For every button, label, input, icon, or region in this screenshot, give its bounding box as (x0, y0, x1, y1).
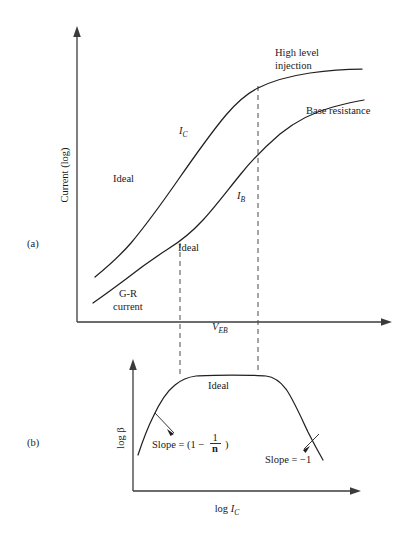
panel-a-high-level-injection-label-line2: injection (275, 60, 312, 71)
panel-b-slope-left-numerator: 1 (212, 432, 217, 443)
panel-b-label: (b) (27, 437, 40, 449)
panel-a-high-level-injection-label-line1: High level (275, 47, 319, 58)
figure-svg: IC IB Ideal Ideal High level injection B… (0, 0, 412, 547)
panel-b-slope-left-label: Slope = (1 − 1 n ) (152, 432, 229, 454)
panel-b-slope-right-leader (304, 434, 319, 449)
panel-b-slope-right-label: Slope = −1 (265, 454, 311, 465)
panel-b-slope-left-denominator: n (212, 443, 218, 454)
panel-a-label: (a) (27, 238, 39, 250)
panel-a-ib-label: IB (236, 190, 246, 204)
panel-b-y-axis-label: log β (115, 427, 126, 448)
panel-a-y-axis-arrowhead (73, 26, 81, 37)
panel-a-y-axis-label: Current (log) (59, 147, 71, 203)
panel-b-y-axis-arrowhead (129, 359, 137, 370)
panel-a: IC IB Ideal Ideal High level injection B… (27, 26, 392, 374)
panel-a-ic-label: IC (178, 125, 189, 139)
panel-b-slope-left-prefix: Slope = (1 − (152, 439, 204, 451)
panel-a-ideal-lower-label: Ideal (178, 242, 199, 253)
panel-a-x-axis-arrowhead (381, 318, 392, 326)
panel-b-x-axis-arrowhead (350, 487, 361, 495)
panel-a-gr-current-label-line1: G-R (119, 288, 137, 299)
panel-a-base-resistance-label: Base resistance (306, 105, 371, 116)
panel-a-x-axis-label: VEB (212, 321, 228, 335)
panel-b-slope-left-leader (155, 413, 174, 433)
panel-a-curve-collector-current (95, 69, 362, 277)
panel-b-ideal-label: Ideal (208, 380, 229, 391)
panel-b-slope-left-suffix: ) (225, 439, 229, 451)
panel-b-x-axis-label: log IC (215, 503, 241, 517)
panel-a-curve-base-current (93, 100, 364, 303)
panel-a-gr-current-label-line2: current (113, 301, 143, 312)
panel-a-ideal-upper-label: Ideal (113, 173, 134, 184)
panel-b: Ideal Slope = (1 − 1 n ) Slope = −1 log … (27, 359, 361, 517)
figure-root: IC IB Ideal Ideal High level injection B… (0, 0, 412, 547)
